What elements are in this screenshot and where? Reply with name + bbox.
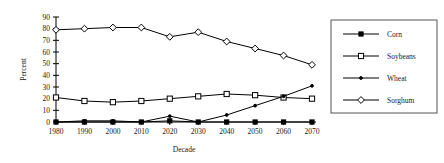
chart-legend: CornSoybeansWheatSorghum [331,20,437,113]
data-point-soybeans [110,100,115,105]
data-point-wheat [55,121,58,124]
data-point-sorghum [195,29,202,36]
y-tick-label: 0 [46,118,50,127]
data-point-soybeans [224,91,229,96]
series-line-soybeans [56,94,312,102]
x-tick-label: 2000 [105,127,120,136]
data-point-sorghum [223,38,230,45]
data-point-sorghum [252,45,259,52]
data-point-wheat [311,84,314,87]
data-point-corn [281,120,285,124]
data-point-corn [310,120,314,124]
data-point-corn [225,120,229,124]
data-point-sorghum [166,33,173,40]
data-point-wheat [254,104,257,107]
data-point-wheat [197,121,200,124]
y-axis-title: Percent [19,57,28,80]
data-point-soybeans [139,98,144,103]
y-tick-label: 50 [43,59,51,68]
y-tick-label: 80 [43,24,51,33]
legend-marker-wheat [360,77,363,80]
series-wheat [55,84,314,123]
legend-label: Corn [387,30,402,39]
legend-marker-corn [359,32,363,36]
series-sorghum [53,24,316,68]
chart-figure: 0102030405060708090 19801990200020102020… [0,0,444,163]
series-line-sorghum [56,28,312,65]
data-point-soybeans [53,95,58,100]
y-tick-label: 90 [43,13,51,22]
data-point-sorghum [138,24,145,31]
series-container [53,24,316,124]
y-tick-label: 40 [43,71,51,80]
y-tick-label: 20 [43,94,51,103]
data-point-sorghum [309,61,316,68]
x-tick-label: 2030 [191,127,206,136]
data-point-wheat [140,121,143,124]
legend-label: Sorghum [387,96,415,105]
x-tick-label: 2020 [162,127,177,136]
x-tick-label: 2050 [248,127,263,136]
data-point-corn [168,119,172,123]
data-point-sorghum [109,24,116,31]
series-soybeans [53,91,314,104]
data-point-wheat [111,119,114,122]
data-point-soybeans [167,96,172,101]
data-point-soybeans [82,98,87,103]
data-point-soybeans [253,93,258,98]
data-point-wheat [225,114,228,117]
y-tick-label: 60 [43,48,51,57]
legend-marker-soybeans [358,53,363,58]
x-tick-label: 2040 [219,127,234,136]
x-tick-label: 2060 [276,127,291,136]
x-tick-label: 2070 [305,127,320,136]
data-point-wheat [83,119,86,122]
y-tick-label: 10 [43,106,51,115]
series-line-wheat [56,86,312,122]
y-tick-label: 70 [43,36,51,45]
data-point-sorghum [53,26,60,33]
data-point-wheat [168,115,171,118]
legend-label: Soybeans [387,52,416,61]
x-axis: 1980199020002010202020302040205020602070 [49,122,320,136]
line-chart: 0102030405060708090 19801990200020102020… [0,0,444,163]
data-point-soybeans [196,94,201,99]
legend-label: Wheat [387,74,407,83]
data-point-wheat [282,95,285,98]
data-point-sorghum [81,25,88,32]
data-point-soybeans [309,96,314,101]
x-tick-label: 1980 [49,127,64,136]
x-axis-title: Decade [173,145,196,154]
data-point-corn [253,120,257,124]
data-point-sorghum [280,52,287,59]
x-tick-label: 2010 [134,127,149,136]
x-tick-label: 1990 [77,127,92,136]
y-tick-label: 30 [43,83,51,92]
